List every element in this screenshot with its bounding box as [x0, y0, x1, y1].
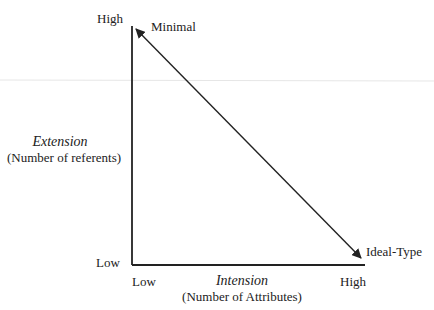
y-axis-subtitle: (Number of referents)	[7, 151, 121, 164]
y-high-label: High	[97, 12, 123, 25]
y-axis-title: Extension	[32, 135, 87, 149]
y-low-label: Low	[96, 256, 120, 269]
x-axis-subtitle: (Number of Attributes)	[182, 290, 302, 303]
minimal-label: Minimal	[151, 20, 196, 33]
x-axis-title: Intension	[216, 274, 268, 288]
double-arrow-line	[136, 29, 361, 258]
ideal-type-label: Ideal-Type	[366, 245, 422, 258]
faint-rule	[0, 80, 434, 81]
x-high-label: High	[340, 275, 366, 288]
x-low-label: Low	[132, 275, 156, 288]
